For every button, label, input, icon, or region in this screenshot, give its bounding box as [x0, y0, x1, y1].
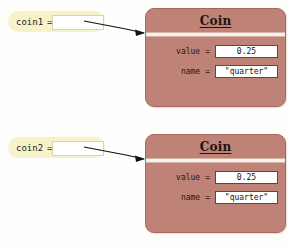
object-fields-list: value = 0.25 name = "quarter"	[146, 163, 285, 204]
field-value-box[interactable]: 0.25	[215, 171, 278, 184]
object-box[interactable]: Coin value = 0.25 name = "quarter"	[145, 134, 286, 233]
field-equals-label: =	[205, 193, 210, 202]
object-fields-list: value = 0.25 name = "quarter"	[146, 37, 285, 78]
object-field-row: value = 0.25	[146, 170, 285, 184]
pointer-arrow-icon	[78, 136, 150, 166]
field-value-box[interactable]: "quarter"	[215, 65, 278, 78]
object-class-name: Coin	[200, 14, 232, 28]
object-diagram-instance: coin1 = Coin value = 0.25 name	[0, 0, 291, 125]
variable-name-label: coin2	[16, 143, 43, 153]
object-field-row: name = "quarter"	[146, 64, 285, 78]
object-class-name: Coin	[200, 140, 232, 154]
field-name-label: name	[181, 193, 200, 202]
object-title-bar: Coin	[146, 9, 285, 32]
object-diagram-figure: coin1 = Coin value = 0.25 name	[0, 0, 291, 251]
field-value-box[interactable]: "quarter"	[215, 191, 278, 204]
variable-name-label: coin1	[16, 17, 43, 27]
object-field-row: name = "quarter"	[146, 190, 285, 204]
field-name-label: name	[181, 67, 200, 76]
pointer-arrow-icon	[78, 10, 150, 40]
field-value-box[interactable]: 0.25	[215, 45, 278, 58]
object-field-row: value = 0.25	[146, 44, 285, 58]
field-equals-label: =	[205, 173, 210, 182]
object-diagram-instance: coin2 = Coin value = 0.25 name	[0, 126, 291, 251]
field-name-label: value	[176, 173, 200, 182]
field-equals-label: =	[205, 67, 210, 76]
field-equals-label: =	[205, 47, 210, 56]
field-name-label: value	[176, 47, 200, 56]
object-title-bar: Coin	[146, 135, 285, 158]
object-box[interactable]: Coin value = 0.25 name = "quarter"	[145, 8, 286, 107]
